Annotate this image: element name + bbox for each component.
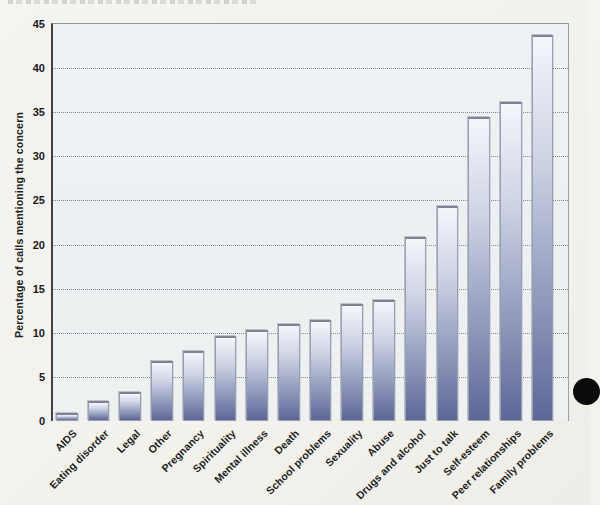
- bar-spirituality: [215, 336, 237, 421]
- bar-just-to-talk: [437, 206, 459, 421]
- x-tick-label-other: Other: [146, 427, 175, 456]
- x-tick-label-aids: AIDS: [53, 427, 80, 454]
- y-tick-label-15: 15: [33, 282, 45, 296]
- bar-death: [278, 324, 300, 421]
- bar-legal: [119, 392, 141, 421]
- x-tick-label-death: Death: [272, 427, 301, 456]
- bar-aids: [56, 413, 78, 421]
- bar-drugs-and-alcohol: [405, 237, 427, 421]
- gridline-y-25: [53, 200, 568, 201]
- bar-mental-illness: [246, 330, 268, 421]
- clipped-caption-remnant: [8, 0, 256, 4]
- bar-abuse: [373, 300, 395, 421]
- y-tick-label-25: 25: [33, 193, 45, 207]
- y-tick-label-40: 40: [33, 61, 45, 75]
- y-tick-label-10: 10: [33, 326, 45, 340]
- y-tick-label-35: 35: [33, 105, 45, 119]
- y-tick-label-20: 20: [33, 238, 45, 252]
- y-tick-label-5: 5: [39, 370, 45, 384]
- x-tick-label-eating-disorder: Eating disorder: [47, 427, 111, 491]
- bar-other: [151, 361, 173, 421]
- y-tick-label-30: 30: [33, 149, 45, 163]
- bar-eating-disorder: [88, 401, 110, 421]
- y-tick-label-0: 0: [39, 414, 45, 428]
- bar-pregnancy: [183, 351, 205, 421]
- gridline-y-35: [53, 112, 568, 113]
- bar-peer-relationships: [500, 102, 522, 421]
- y-tick-label-45: 45: [33, 17, 45, 31]
- hole-punch-dot-artifact: [573, 378, 600, 405]
- bar-sexuality: [341, 304, 363, 421]
- gridline-y-40: [53, 68, 568, 69]
- gridline-y-20: [53, 245, 568, 246]
- plot-area: 051015202530354045AIDSEating disorderLeg…: [51, 23, 569, 421]
- bar-family-problems: [532, 35, 554, 421]
- gridline-y-30: [53, 156, 568, 157]
- bar-school-problems: [310, 320, 332, 421]
- x-tick-label-legal: Legal: [114, 427, 142, 455]
- gridline-y-15: [53, 289, 568, 290]
- y-axis-title: Percentage of calls mentioning the conce…: [13, 112, 25, 338]
- bar-self-esteem: [468, 117, 490, 421]
